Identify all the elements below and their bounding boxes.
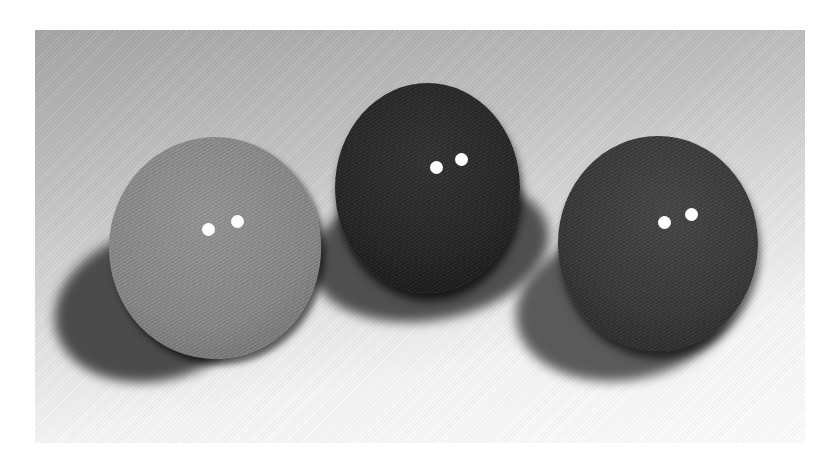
left-squash-ball (109, 137, 321, 359)
ball-dot-icon (202, 223, 215, 236)
ball-dot-icon (455, 153, 468, 166)
ball-dot-icon (430, 161, 443, 174)
ball-dot-icon (658, 216, 671, 229)
ball-dot-icon (685, 208, 698, 221)
ball-dot-icon (231, 215, 244, 228)
right-squash-ball (558, 136, 758, 351)
center-squash-ball (335, 83, 520, 293)
photo (35, 30, 805, 443)
